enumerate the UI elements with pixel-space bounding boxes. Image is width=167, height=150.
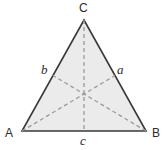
figure-canvas: [0, 0, 167, 150]
vertex-label-a: A: [5, 127, 13, 139]
vertex-label-b: B: [152, 127, 160, 139]
vertex-label-c: C: [79, 2, 88, 14]
triangle-medians-figure: A B C a b c: [0, 0, 167, 150]
midpoint-label-a: a: [117, 63, 124, 76]
midpoint-label-c: c: [80, 134, 86, 147]
midpoint-label-b: b: [41, 63, 48, 76]
